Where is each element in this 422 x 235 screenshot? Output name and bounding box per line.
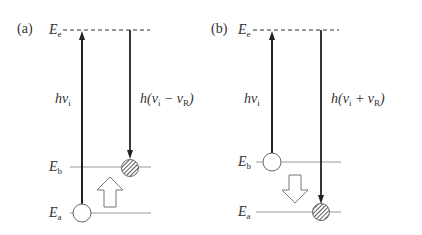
hollow-down-arrow-icon xyxy=(282,175,308,203)
level-ea-label: Ea xyxy=(238,205,251,221)
emission-label: h(νi + νR) xyxy=(331,92,385,108)
panel-b-label: (b) xyxy=(211,22,227,36)
panel-a xyxy=(63,30,151,222)
emission-label: h(νi − νR) xyxy=(140,92,194,108)
level-ea-label: Ea xyxy=(49,206,62,222)
level-ee-label: Ee xyxy=(49,23,62,39)
hatched-circle xyxy=(313,204,330,221)
excitation-label: hνi xyxy=(55,92,71,108)
level-eb-label: Eb xyxy=(238,155,251,171)
excitation-label: hνi xyxy=(244,92,260,108)
open-circle xyxy=(263,153,281,171)
hollow-up-arrow-icon xyxy=(97,177,123,207)
panel-a-label: (a) xyxy=(17,22,33,36)
panel-b xyxy=(253,30,341,221)
level-eb-label: Eb xyxy=(49,160,62,176)
open-circle xyxy=(73,204,91,222)
level-ee-label: Ee xyxy=(238,23,251,39)
hatched-circle xyxy=(122,160,139,177)
